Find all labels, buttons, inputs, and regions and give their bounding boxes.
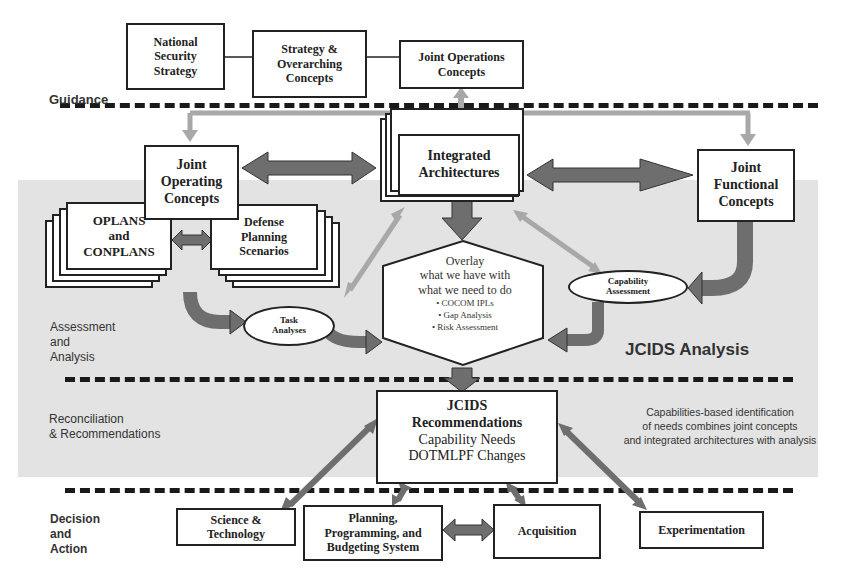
integrated-architectures-box: Integrated Architectures (398, 134, 520, 196)
acquisition-box: Acquisition (493, 504, 601, 559)
jcids-analysis-label: JCIDS Analysis (625, 340, 749, 360)
overlay-line2: what we need to do (385, 283, 545, 297)
overlay-bullet-gap: • Gap Analysis (385, 309, 545, 321)
overlay-title: Overlay (385, 254, 545, 268)
joint-operations-concepts-box: Joint Operations Concepts (399, 40, 524, 89)
experimentation-box: Experimentation (639, 511, 764, 549)
lane-label-decision: Decision and Action (50, 512, 100, 557)
overlay-line1: what we have with (385, 268, 545, 282)
task-analyses-ellipse: Task Analyses (243, 306, 335, 346)
overlay-bullet-risk: • Risk Assessment (385, 321, 545, 333)
national-security-strategy-box: National Security Strategy (126, 23, 225, 90)
lane-label-guidance: Guidance (49, 92, 108, 108)
strategy-overarching-concepts-box: Strategy & Overarching Concepts (252, 30, 367, 98)
jcids-recommendations-box: JCIDS Recommendations Capability Needs D… (376, 390, 558, 484)
lane-label-reconciliation: Reconciliation & Recommendations (49, 412, 160, 442)
recommendations-line-title: Recommendations (378, 415, 556, 432)
ppbs-box: Planning, Programming, and Budgeting Sys… (303, 505, 443, 561)
joint-operating-concepts-box: Joint Operating Concepts (144, 145, 239, 220)
recommendations-line-jcids: JCIDS (378, 398, 556, 415)
joint-functional-concepts-box: Joint Functional Concepts (697, 149, 795, 222)
capabilities-caption: Capabilities-based identification of nee… (600, 405, 840, 448)
recommendations-line-needs: Capability Needs (378, 432, 556, 449)
overlay-bullet-cocom: • COCOM IPLs (385, 297, 545, 309)
science-technology-box: Science & Technology (176, 508, 296, 546)
capability-assessment-ellipse: Capability Assessment (568, 270, 688, 304)
recommendations-line-dotmlpf: DOTMLPF Changes (378, 448, 556, 465)
lane-label-assessment: Assessment and Analysis (50, 320, 115, 365)
overlay-text: Overlay what we have with what we need t… (385, 254, 545, 334)
